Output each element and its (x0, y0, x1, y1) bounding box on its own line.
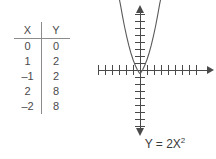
column-header-y: Y (42, 22, 71, 39)
cell-y: 2 (42, 54, 71, 69)
table-row: 0 0 (14, 39, 70, 55)
column-header-x: X (14, 22, 42, 39)
cell-y: 8 (42, 84, 71, 99)
cell-x: 2 (14, 84, 42, 99)
table-header-row: X Y (14, 22, 70, 39)
xy-table: X Y 0 0 1 2 –1 2 2 8 (14, 22, 70, 114)
cell-y: 0 (42, 39, 71, 55)
cell-x: 0 (14, 39, 42, 55)
equation-text: Y = 2X (145, 137, 181, 151)
worksheet-figure: X Y 0 0 1 2 –1 2 2 8 (0, 0, 216, 159)
cell-x: –2 (14, 99, 42, 114)
value-table: X Y 0 0 1 2 –1 2 2 8 (14, 22, 70, 114)
equation-exponent: 2 (181, 136, 185, 145)
table-row: 2 8 (14, 84, 70, 99)
x-axis-right-arrow (207, 66, 214, 74)
cell-x: 1 (14, 54, 42, 69)
equation-label: Y = 2X2 (120, 136, 210, 151)
parabola-graph (98, 0, 216, 140)
y-axis-up-arrow (136, 5, 144, 13)
cell-x: –1 (14, 69, 42, 84)
graph-svg (98, 0, 216, 140)
table-row: 1 2 (14, 54, 70, 69)
table-row: –2 8 (14, 99, 70, 114)
y-axis-down-arrow (136, 128, 144, 136)
cell-y: 2 (42, 69, 71, 84)
cell-y: 8 (42, 99, 71, 114)
table-row: –1 2 (14, 69, 70, 84)
